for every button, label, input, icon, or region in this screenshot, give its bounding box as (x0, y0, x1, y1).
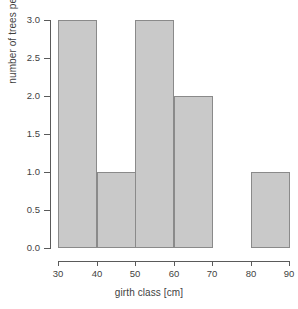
y-axis-tick-mark (44, 20, 50, 21)
plot-area (0, 0, 298, 309)
x-axis-tick-mark (135, 261, 136, 266)
y-axis-tick-label: 0.5 (0, 205, 40, 215)
y-axis-tick-mark (44, 134, 50, 135)
y-axis-tick-label: 2.0 (0, 91, 40, 101)
histogram-bar (58, 20, 97, 248)
x-axis-tick-label: 90 (274, 269, 298, 279)
y-axis-tick-mark (44, 58, 50, 59)
y-axis-tick-mark (44, 96, 50, 97)
y-axis-line (50, 20, 51, 249)
x-axis-tick-mark (58, 261, 59, 266)
y-axis-tick-mark (44, 172, 50, 173)
x-axis-tick-mark (212, 261, 213, 266)
x-axis-title: girth class [cm] (0, 287, 298, 298)
x-axis-tick-label: 50 (120, 269, 150, 279)
x-axis-tick-label: 30 (43, 269, 73, 279)
x-axis-tick-label: 70 (197, 269, 227, 279)
histogram-bar (97, 172, 136, 248)
x-axis-tick-mark (97, 261, 98, 266)
x-axis-tick-mark (251, 261, 252, 266)
x-axis-tick-label: 80 (236, 269, 266, 279)
y-axis-tick-label: 2.5 (0, 53, 40, 63)
x-axis-tick-label: 40 (82, 269, 112, 279)
y-axis-tick-label: 1.0 (0, 167, 40, 177)
histogram-bar (135, 20, 174, 248)
x-axis-tick-label: 60 (159, 269, 189, 279)
y-axis-tick-mark (44, 248, 50, 249)
y-axis-tick-mark (44, 210, 50, 211)
x-axis-tick-mark (174, 261, 175, 266)
histogram-bar (174, 96, 213, 248)
histogram-bar (251, 172, 290, 248)
y-axis-tick-label: 3.0 (0, 15, 40, 25)
y-axis-tick-label: 0.0 (0, 243, 40, 253)
y-axis-tick-label: 1.5 (0, 129, 40, 139)
histogram-figure: number of trees per class 0.00.51.01.52.… (0, 0, 298, 309)
x-axis-tick-mark (289, 261, 290, 266)
